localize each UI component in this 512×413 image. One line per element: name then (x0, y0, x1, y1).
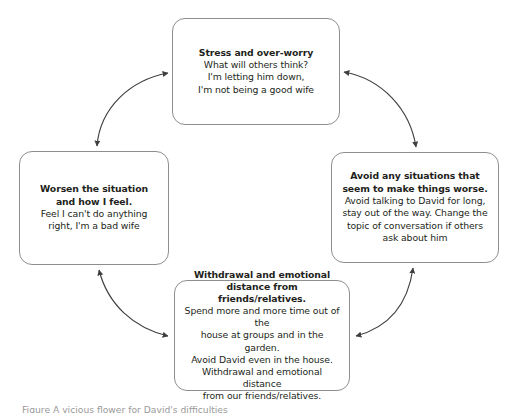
vicious-cycle-diagram: Stress and over-worry What will others t… (0, 0, 512, 413)
connector-withdrawal-to-worsening (99, 270, 168, 336)
node-avoidance: Avoid any situations that seem to make t… (331, 152, 499, 263)
node-worsening: Worsen the situation and how I feel. Fee… (19, 151, 169, 265)
connector-avoidance-to-withdrawal (356, 268, 413, 336)
node-stress-heading: Stress and over-worry (199, 47, 313, 59)
node-withdrawal: Withdrawal and emotional distance from f… (174, 280, 350, 391)
node-stress-body: What will others think? I'm letting him … (198, 59, 314, 96)
node-avoidance-heading: Avoid any situations that seem to make t… (342, 170, 487, 194)
node-worsening-heading: Worsen the situation and how I feel. (40, 183, 148, 207)
node-stress: Stress and over-worry What will others t… (172, 18, 340, 125)
node-worsening-body: Feel I can't do anything right, I'm a ba… (41, 208, 148, 233)
connector-stress-to-avoidance (344, 72, 416, 147)
figure-caption: Figure A vicious flower for David's diff… (22, 404, 452, 413)
node-avoidance-body: Avoid talking to David for long, stay ou… (342, 195, 487, 245)
node-withdrawal-heading: Withdrawal and emotional distance from f… (184, 269, 340, 305)
node-withdrawal-body: Spend more and more time out of the hous… (184, 305, 340, 402)
connector-worsening-to-stress (97, 73, 168, 146)
